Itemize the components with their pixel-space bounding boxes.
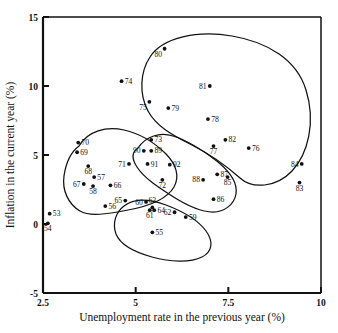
point-marker	[168, 163, 172, 167]
point-label: 81	[199, 82, 207, 91]
point-label: 86	[217, 195, 225, 204]
point-label: 85	[224, 178, 232, 187]
x-axis-title: Unemployment rate in the previous year (…	[79, 311, 285, 324]
x-tick-label: 2.5	[37, 298, 49, 308]
point-label: 69	[80, 148, 88, 157]
point-marker	[212, 197, 216, 201]
x-tick-label: 10	[316, 298, 326, 308]
point-marker	[149, 149, 153, 153]
point-marker	[163, 47, 167, 51]
point-label: 55	[156, 228, 164, 237]
x-tick-label: 7.5	[222, 298, 234, 308]
point-marker	[147, 100, 151, 104]
point-marker	[146, 162, 150, 166]
point-label: 71	[118, 160, 126, 169]
point-marker	[48, 212, 52, 216]
point-marker	[76, 141, 80, 145]
point-marker	[184, 215, 188, 219]
point-label: 60	[135, 198, 143, 207]
point-marker	[223, 138, 227, 142]
point-label: 92	[173, 160, 181, 169]
point-label: 82	[229, 135, 237, 144]
point-label: 68	[84, 167, 92, 176]
point-label: 77	[210, 147, 218, 156]
point-label: 66	[114, 181, 122, 190]
point-marker	[103, 204, 107, 208]
point-label: 73	[154, 135, 162, 144]
y-tick-label: -5	[30, 289, 38, 299]
point-label: 80	[154, 50, 162, 59]
chart-canvas: 2.557.510151050-5 5354555657585960616263…	[0, 0, 338, 333]
point-label: 53	[53, 209, 61, 218]
point-marker	[208, 84, 212, 88]
point-label: 78	[211, 115, 219, 124]
point-marker	[166, 106, 170, 110]
point-marker	[142, 149, 146, 153]
point-marker	[123, 199, 127, 203]
point-marker	[300, 162, 304, 166]
point-marker	[92, 175, 96, 179]
point-marker	[149, 138, 153, 142]
point-marker	[215, 172, 219, 176]
point-label: 67	[73, 180, 81, 189]
point-marker	[152, 208, 156, 212]
point-label: 57	[97, 173, 105, 182]
point-marker	[173, 210, 177, 214]
point-label: 64	[157, 206, 165, 215]
point-label: 59	[189, 213, 197, 222]
point-label: 89	[154, 146, 162, 155]
chart-background	[0, 0, 338, 333]
y-tick-label: 15	[29, 13, 39, 23]
point-label: 58	[89, 187, 97, 196]
point-label: 63	[149, 196, 157, 205]
point-label: 75	[139, 103, 147, 112]
y-tick-label: 10	[29, 82, 39, 92]
point-label: 74	[125, 77, 133, 86]
y-tick-label: 5	[33, 151, 38, 161]
scatter-chart-figure: 2.557.510151050-5 5354555657585960616263…	[0, 0, 338, 333]
point-label: 61	[146, 211, 154, 220]
point-label: 79	[171, 104, 179, 113]
point-label: 91	[151, 160, 159, 169]
point-marker	[75, 150, 79, 154]
point-marker	[206, 117, 210, 121]
point-label: 90	[133, 146, 141, 155]
y-axis-title: Inflation in the current year (%)	[4, 82, 17, 229]
point-label: 65	[114, 196, 122, 205]
point-marker	[144, 200, 148, 204]
point-label: 84	[291, 160, 299, 169]
point-label: 54	[44, 224, 52, 233]
point-label: 83	[296, 184, 304, 193]
x-tick-label: 5	[133, 298, 138, 308]
point-label: 72	[159, 181, 167, 190]
point-marker	[201, 178, 205, 182]
y-tick-label: 0	[33, 220, 38, 230]
point-label: 76	[252, 144, 260, 153]
point-label: 70	[81, 138, 89, 147]
point-marker	[127, 162, 131, 166]
point-label: 87	[220, 170, 228, 179]
point-marker	[247, 146, 251, 150]
point-label: 88	[192, 175, 200, 184]
point-marker	[120, 79, 124, 83]
point-marker	[82, 182, 86, 186]
point-marker	[150, 230, 154, 234]
point-marker	[109, 183, 113, 187]
